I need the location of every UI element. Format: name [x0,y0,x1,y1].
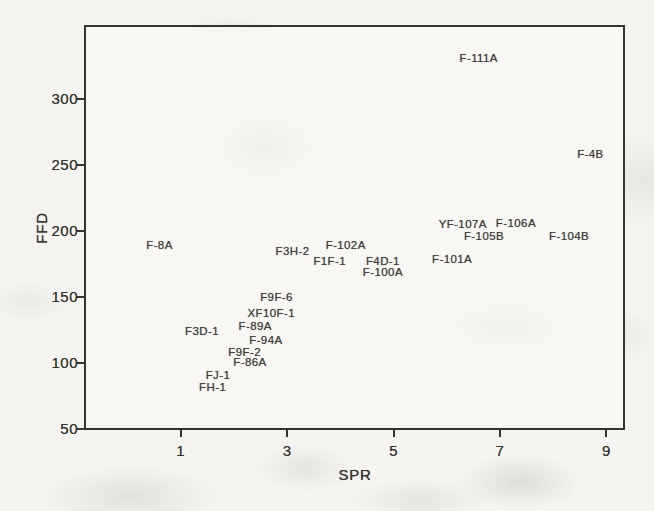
y-tick-mark [77,428,84,430]
data-point-label: F3D-1 [185,325,219,337]
data-point-label: F9F-2 [228,346,261,358]
data-point-label: YF-107A [439,218,487,230]
y-tick-label: 50 [34,420,78,437]
data-point-label: F-111A [459,52,497,64]
x-tick-label: 1 [176,442,185,459]
y-tick-mark [77,296,84,298]
data-point-label: F-106A [496,217,536,229]
data-point-label: F-89A [239,320,272,332]
x-tick-label: 9 [602,442,611,459]
data-point-label: F1F-1 [313,255,346,267]
x-tick-mark [180,430,182,437]
x-tick-label: 7 [496,442,505,459]
plot-area [84,25,625,430]
data-point-label: F-102A [326,239,366,251]
y-tick-label: 250 [34,156,78,173]
x-tick-mark [605,430,607,437]
scatter-chart: 50100150200250300 13579 FH-1FJ-1F-86AF9F… [0,0,654,511]
x-tick-mark [393,430,395,437]
data-point-label: F-94A [249,334,282,346]
data-point-label: F-100A [363,266,403,278]
data-point-label: FJ-1 [206,369,231,381]
y-axis-title: FFD [33,212,50,244]
y-tick-label: 150 [34,288,78,305]
data-point-label: F-105B [464,230,504,242]
data-point-label: F4D-1 [366,255,400,267]
y-tick-label: 100 [34,354,78,371]
x-tick-mark [499,430,501,437]
y-tick-label: 300 [34,90,78,107]
x-axis-title: SPR [338,466,371,483]
data-point-label: FH-1 [199,381,226,393]
data-point-label: F-4B [577,148,604,160]
y-tick-mark [77,164,84,166]
y-tick-mark [77,230,84,232]
data-point-label: F-104B [549,230,589,242]
data-point-label: F9F-6 [260,291,293,303]
data-point-label: F-8A [146,239,173,251]
x-tick-label: 3 [283,442,292,459]
y-tick-mark [77,98,84,100]
x-tick-mark [286,430,288,437]
data-point-label: F3H-2 [276,245,310,257]
x-tick-label: 5 [389,442,398,459]
y-tick-mark [77,362,84,364]
data-point-label: F-101A [432,253,472,265]
data-point-label: XF10F-1 [247,307,295,319]
